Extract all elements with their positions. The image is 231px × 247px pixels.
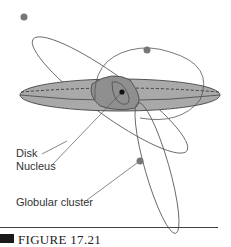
- label-nucleus: Nucleus: [16, 160, 56, 172]
- leader-globular-cluster: [87, 163, 137, 200]
- nucleus-dot: [119, 89, 124, 94]
- label-disk: Disk: [16, 147, 37, 159]
- caption-rule: [0, 227, 218, 228]
- label-globular-cluster: Globular cluster: [16, 196, 93, 208]
- leader-disk: [42, 141, 67, 154]
- caption-bar: [0, 234, 14, 243]
- figure-caption: FIGURE 17.21: [18, 232, 101, 247]
- galaxy-diagram: [0, 0, 231, 247]
